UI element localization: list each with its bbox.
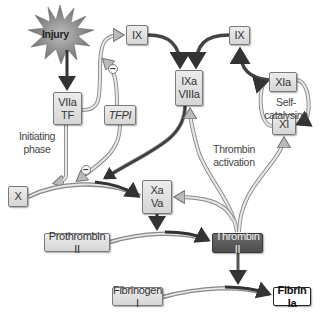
node-ixa-label: IXa [181, 75, 197, 88]
label-thrombin-activation-line1: Thrombin [212, 143, 256, 156]
node-xa-va: Xa Va [142, 180, 172, 214]
node-thrombin-label: Thrombin II [213, 230, 262, 256]
node-fibrinogen-label: Fibrinogen I [113, 284, 162, 310]
label-initiating-line1: Initiating [18, 130, 56, 143]
label-initiating-phase: Initiating phase [18, 130, 56, 156]
node-viia-label: VIIa [58, 96, 76, 109]
arrow-viia-to-x-line [55, 125, 66, 183]
arrow-xia-to-ix [240, 50, 269, 80]
node-fibrinogen: Fibrinogen I [112, 287, 163, 306]
node-prothrombin-label: Prothrombin II [45, 230, 109, 256]
coagulation-diagram [0, 0, 325, 312]
node-thrombin: Thrombin II [212, 233, 263, 253]
node-tfpi: TFPI [104, 105, 136, 125]
node-va-label: Va [151, 197, 163, 210]
node-viiia-label: VIIIa [178, 88, 199, 101]
label-thrombin-activation-line2: activation [212, 156, 256, 169]
node-prothrombin: Prothrombin II [44, 233, 110, 252]
arrow-ix-right-to-ixa [196, 35, 229, 66]
node-x-label: X [14, 190, 21, 203]
arrow-prothrombin-to-thrombin [110, 232, 208, 242]
arrow-fibrinogen-to-fibrin [163, 287, 269, 297]
node-x: X [8, 186, 28, 207]
node-tf-label: TF [61, 109, 74, 122]
node-ix-left: IX [126, 25, 148, 45]
node-fibrin: Fibrin Ia [273, 287, 311, 306]
node-fibrin-label: Fibrin Ia [274, 284, 310, 310]
injury-label: Injury [42, 28, 69, 40]
label-thrombin-activation: Thrombin activation [212, 143, 256, 169]
node-xa-label: Xa [151, 184, 164, 197]
node-tfpi-label: TFPI [109, 109, 132, 122]
node-xia-label: XIa [275, 76, 291, 89]
arrow-x-to-xa [28, 182, 140, 197]
node-ix-right: IX [229, 26, 250, 45]
inhibition-icon-lower: − [81, 165, 91, 175]
label-self-catalysing: Self-catalysing [255, 96, 317, 122]
node-ix-right-label: IX [235, 29, 245, 42]
node-ixa-viiia: IXa VIIIa [175, 70, 203, 106]
inhibition-icon-upper: − [108, 64, 118, 74]
node-ix-left-label: IX [132, 29, 142, 42]
arrow-ix-left-to-ixa [148, 35, 180, 66]
label-initiating-line2: phase [18, 143, 56, 156]
node-viia-tf: VIIa TF [53, 92, 82, 125]
node-xia: XIa [269, 72, 297, 92]
